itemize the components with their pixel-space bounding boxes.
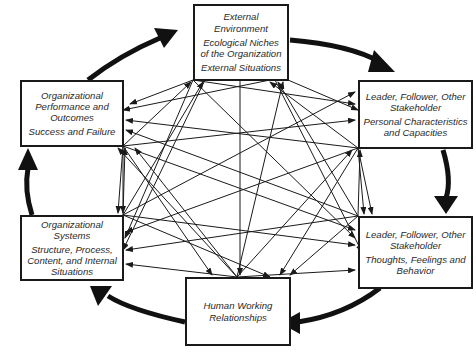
node-detail: Structure, Process, Content, and Interna… [25, 244, 119, 278]
node-heading: Organizational Systems [25, 219, 119, 241]
cycle-arrow-thoughts-to-relationships [298, 288, 380, 322]
arrowhead-thoughts [434, 196, 458, 214]
node-detail: Success and Failure [29, 126, 116, 137]
node-detail: Thoughts, Feelings and Behavior [363, 254, 468, 276]
node-detail-2: External Situations [201, 62, 281, 73]
node-heading: Leader, Follower, Other Stakeholder [363, 229, 468, 251]
arrowhead-personal [368, 50, 395, 72]
node-thoughts-feelings-behavior: Leader, Follower, Other Stakeholder Thou… [358, 216, 473, 289]
node-detail: Ecological Niches of the Organization [198, 37, 284, 59]
node-organizational-systems: Organizational Systems Structure, Proces… [20, 215, 124, 281]
node-heading: Leader, Follower, Other Stakeholder [363, 91, 468, 113]
arrowhead-performance [18, 148, 38, 170]
node-organizational-performance: Organizational Performance and Outcomes … [20, 80, 124, 147]
node-human-working-relationships: Human Working Relationships [185, 277, 291, 346]
cycle-arrow-personal-to-thoughts [443, 150, 448, 198]
node-heading: Human Working Relationships [190, 300, 286, 322]
node-heading: Organizational Performance and Outcomes [25, 90, 119, 124]
cycle-arrow-systems-to-performance [27, 168, 32, 215]
cycle-arrow-relationships-to-systems [108, 296, 185, 322]
interconnection-lines [118, 80, 372, 277]
node-heading: External Environment [198, 11, 284, 33]
node-detail: Personal Characteristics and Capacities [363, 116, 468, 138]
diagram-canvas: External Environment Ecological Niches o… [0, 0, 476, 361]
node-personal-characteristics: Leader, Follower, Other Stakeholder Pers… [358, 80, 473, 149]
cycle-arrow-performance-to-external [88, 38, 160, 80]
node-external-environment: External Environment Ecological Niches o… [193, 4, 289, 81]
cycle-arrow-external-to-personal [290, 40, 380, 62]
